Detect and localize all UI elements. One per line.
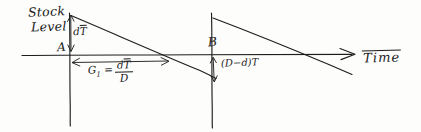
point-b-label: B <box>207 36 217 49</box>
drop-annotation: (D−d)T <box>221 57 259 68</box>
fraction-numerator-overline-term: T <box>123 58 130 70</box>
rise-annotation-overline-term: T <box>79 25 87 37</box>
y-axis-label-line1: Stock <box>28 5 66 19</box>
cycle-length-fraction: dT D <box>115 58 134 84</box>
y-axis-label-line2: Level <box>31 20 67 34</box>
rise-annotation-dt: dT <box>73 25 87 37</box>
fraction-denominator: D <box>118 72 131 83</box>
fraction-numerator: dT <box>115 58 133 71</box>
handwritten-diagram: Stock Level A B dT G1 = dT D (D−d)T Time <box>0 0 421 132</box>
cycle-length-equals: = <box>104 63 113 75</box>
time-axis-line <box>22 54 352 55</box>
point-a-label: A <box>57 41 66 53</box>
x-axis-label-text: Time <box>362 49 402 64</box>
cycle-length-annotation: G1 = dT D <box>88 58 134 85</box>
vertical-line-b <box>212 13 213 128</box>
x-axis-label: Time <box>362 49 402 64</box>
cycle-length-subscript: 1 <box>96 71 101 79</box>
vertical-line-a <box>70 13 71 126</box>
cycle-length-lhs: G1 = <box>88 64 113 79</box>
